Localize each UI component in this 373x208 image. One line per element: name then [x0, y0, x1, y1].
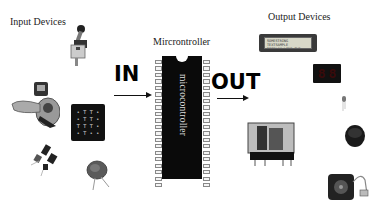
- chip-pin: [203, 112, 210, 116]
- lcd-display: SOMESTRING TEXTSAMPLE DISPLAY LINE TWO S…: [259, 34, 317, 52]
- chip-pin: [155, 131, 162, 135]
- out-label: OUT: [211, 70, 260, 94]
- chip-pin: [155, 177, 162, 181]
- chip-pin: [155, 99, 162, 103]
- chip-pin: [155, 138, 162, 142]
- chip-pin: [155, 73, 162, 77]
- keypad-key: •: [95, 123, 102, 130]
- toggle-switch-icon: [10, 80, 60, 130]
- chip-pin: [155, 151, 162, 155]
- chip-pin: [203, 92, 210, 96]
- sensors: [25, 143, 65, 178]
- microcontroller-label: Mircrontroller: [153, 36, 210, 47]
- chip-pin: [155, 157, 162, 161]
- sensor-components-icon: [25, 143, 65, 178]
- chip-pin: [155, 86, 162, 90]
- chip-pin: [155, 125, 162, 129]
- chip-pin: [203, 66, 210, 70]
- chip-pin: [203, 118, 210, 122]
- chip-pin: [155, 118, 162, 122]
- toggle-switch: [10, 80, 60, 130]
- in-label: IN: [114, 62, 139, 86]
- seven-segment-display: 8 8: [313, 64, 341, 83]
- limit-switch: [65, 23, 95, 73]
- ceramic-disc: [85, 160, 115, 192]
- chip-pin: [203, 73, 210, 77]
- chip-pin: [155, 164, 162, 168]
- chip-pin: [203, 183, 210, 187]
- chip-pin: [155, 170, 162, 174]
- relay-icon: [247, 122, 297, 168]
- buzzer-icon: [344, 124, 366, 148]
- chip-pin: [203, 125, 210, 129]
- chip-pin: [203, 105, 210, 109]
- keypad-key: •: [95, 108, 102, 115]
- chip-notch: [176, 56, 188, 62]
- chip-pin: [203, 157, 210, 161]
- left-pins: [155, 60, 162, 187]
- led-icon: [340, 96, 348, 112]
- chip-pin: [203, 138, 210, 142]
- segment-digit-2: 8: [329, 66, 337, 81]
- chip-body: microcontroller: [162, 56, 202, 179]
- output-devices-label: Output Devices: [268, 11, 331, 22]
- chip-pin: [155, 92, 162, 96]
- chip-pin: [203, 86, 210, 90]
- led: [340, 96, 348, 112]
- chip-pin: [203, 151, 210, 155]
- chip-pin: [203, 131, 210, 135]
- keypad-key: •: [95, 115, 102, 122]
- chip-pin: [155, 105, 162, 109]
- chip-pin: [203, 177, 210, 181]
- chip-pin: [155, 79, 162, 83]
- chip-pin: [155, 112, 162, 116]
- right-pins: [203, 60, 210, 187]
- buzzer: [344, 124, 366, 148]
- relay: [247, 122, 297, 168]
- chip-pin: [155, 183, 162, 187]
- chip-pin: [155, 60, 162, 64]
- chip-pin: [203, 164, 210, 168]
- keypad: •TT••TT•TTT••T••: [71, 104, 105, 141]
- chip-pin: [155, 144, 162, 148]
- motor-icon: [327, 170, 371, 202]
- lcd-screen: SOMESTRING TEXTSAMPLE DISPLAY LINE TWO S…: [264, 37, 312, 49]
- chip-pin: [203, 60, 210, 64]
- segment-digit-1: 8: [318, 66, 326, 81]
- chip-pin: [203, 99, 210, 103]
- chip-pin: [203, 144, 210, 148]
- motor: [327, 170, 371, 202]
- disc-component-icon: [85, 160, 115, 192]
- input-devices-label: Input Devices: [10, 16, 66, 27]
- microcontroller-chip: microcontroller: [155, 56, 209, 182]
- limit-switch-icon: [65, 23, 95, 73]
- lcd-line-2: DISPLAY LINE TWO SET: [267, 47, 309, 49]
- chip-pin: [203, 170, 210, 174]
- lcd-line-1: SOMESTRING TEXTSAMPLE: [267, 39, 309, 47]
- chip-pin: [155, 66, 162, 70]
- chip-pin: [203, 79, 210, 83]
- out-arrow-icon: [217, 98, 247, 99]
- chip-text: microcontroller: [178, 74, 188, 136]
- keypad-key: •: [95, 130, 102, 137]
- in-arrow-icon: [114, 95, 150, 96]
